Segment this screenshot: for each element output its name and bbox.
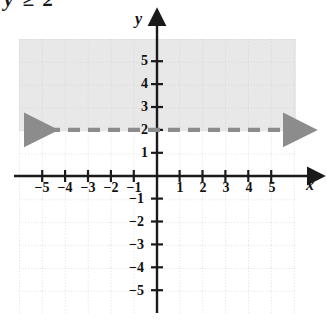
x-tick-label--4: −4 [53, 180, 77, 196]
x-axis-label: x [306, 176, 314, 194]
x-tick-label-3: 3 [214, 180, 238, 196]
x-tick-label-5: 5 [260, 180, 284, 196]
y-tick-label--5: −5 [122, 283, 144, 299]
x-tick-label--3: −3 [76, 180, 100, 196]
y-axis-label: y [135, 10, 142, 28]
x-tick-label-1: 1 [168, 180, 192, 196]
x-tick-label-4: 4 [237, 180, 261, 196]
y-tick-label--3: −3 [122, 237, 144, 253]
y-tick-label--1: −1 [122, 191, 144, 207]
x-tick-label-2: 2 [191, 180, 215, 196]
x-tick-label--5: −5 [30, 180, 54, 196]
y-tick-label-3: 3 [126, 99, 148, 115]
y-tick-label-5: 5 [126, 53, 148, 69]
y-tick-label--4: −4 [122, 260, 144, 276]
coordinate-plane [0, 0, 326, 324]
y-tick-label-2: 2 [126, 122, 148, 138]
y-tick-label-4: 4 [126, 76, 148, 92]
y-tick-label--2: −2 [122, 214, 144, 230]
graph-figure: y ≥ 2 [0, 0, 326, 324]
x-tick-label--2: −2 [99, 180, 123, 196]
y-tick-label-1: 1 [126, 145, 148, 161]
